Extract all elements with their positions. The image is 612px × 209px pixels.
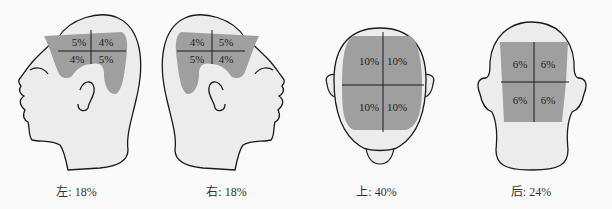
cell-top-left: 10% <box>359 55 379 67</box>
cell-bottom-right: 5% <box>99 53 114 65</box>
cell-top-right: 5% <box>219 36 234 48</box>
cell-top-right: 6% <box>541 58 556 70</box>
caption-right: 右: 18% <box>150 182 303 200</box>
caption-left: 左: 18% <box>0 182 153 200</box>
cell-top-right: 4% <box>99 36 114 48</box>
cell-top-left: 5% <box>72 36 87 48</box>
cell-bottom-right: 6% <box>541 94 556 106</box>
panel-back-view: 6% 6% 6% 6% 后: 24% <box>450 0 603 209</box>
cell-bottom-left: 5% <box>190 53 205 65</box>
caption-back: 后: 24% <box>450 182 612 200</box>
cell-bottom-right: 4% <box>219 53 234 65</box>
cell-top-right: 10% <box>387 55 407 67</box>
panel-top-view: 10% 10% 10% 10% 上: 40% <box>300 0 453 209</box>
head-back-diagram: 6% 6% 6% 6% <box>450 0 612 180</box>
cell-bottom-left: 10% <box>359 101 379 113</box>
cell-top-left: 6% <box>513 58 528 70</box>
cell-bottom-left: 4% <box>70 53 85 65</box>
panel-right-view: 4% 5% 5% 4% 右: 18% <box>150 0 303 209</box>
head-right-side-diagram: 4% 5% 5% 4% <box>150 0 303 180</box>
head-top-diagram: 10% 10% 10% 10% <box>300 0 453 180</box>
cell-top-left: 4% <box>190 36 205 48</box>
cell-bottom-right: 10% <box>387 101 407 113</box>
scalp-region <box>342 36 422 130</box>
cell-bottom-left: 6% <box>513 94 528 106</box>
panel-left-view: 5% 4% 4% 5% 左: 18% <box>0 0 153 209</box>
caption-top: 上: 40% <box>300 182 453 200</box>
head-left-side-diagram: 5% 4% 4% 5% <box>0 0 153 180</box>
